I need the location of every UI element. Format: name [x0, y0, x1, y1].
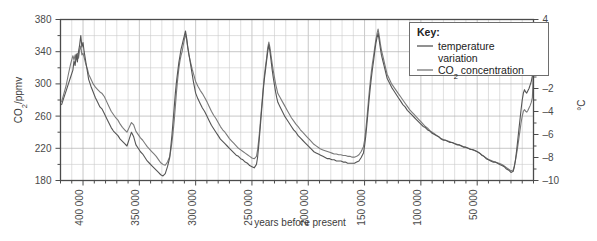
x-tick-label: 300 000 — [187, 189, 198, 226]
y-right-tick-label: –6 — [543, 129, 555, 140]
co2-temperature-chart: 180220260300340380 –10–8–6–4–2024 400 00… — [0, 0, 597, 241]
y-right-tick-label: –4 — [543, 106, 555, 117]
y-right-tick-label: –2 — [543, 83, 555, 94]
x-tick-label: 400 000 — [74, 189, 85, 226]
y-left-tick-label: 260 — [35, 111, 52, 122]
y-left-tick-label: 340 — [35, 46, 52, 57]
y-left-tick-label: 380 — [35, 14, 52, 25]
x-tick-label: 50 000 — [468, 189, 479, 220]
y-left-tick-label: 300 — [35, 78, 52, 89]
x-tick-label: 250 000 — [243, 189, 254, 226]
y-left-tick-label: 220 — [35, 143, 52, 154]
x-tick-label: 100 000 — [412, 189, 423, 226]
y-axis-right-title: °C — [576, 99, 587, 110]
legend-title: Key: — [417, 26, 440, 38]
legend-label-temperature-line2: variation — [438, 52, 478, 64]
legend-label-temperature-line1: temperature — [438, 40, 495, 52]
chart-legend: Key: temperature variation CO2 concentra… — [410, 23, 549, 81]
y-left-tick-label: 180 — [35, 175, 52, 186]
chart-canvas: 180220260300340380 –10–8–6–4–2024 400 00… — [0, 0, 597, 241]
x-tick-label: 150 000 — [356, 189, 367, 226]
y-right-tick-label: –8 — [543, 152, 555, 163]
y-right-tick-label: –10 — [543, 175, 560, 186]
x-tick-label: 350 000 — [130, 189, 141, 226]
x-axis-title: years before present — [254, 217, 346, 228]
